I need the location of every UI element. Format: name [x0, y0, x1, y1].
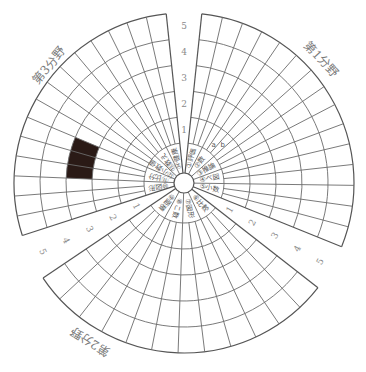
scale-label: 5 [37, 247, 49, 257]
sub-label-b: b [221, 141, 226, 149]
scale-label: 2 [181, 99, 187, 109]
scale-label: 4 [61, 236, 73, 246]
scale-label: 4 [181, 47, 187, 57]
scale-label: 2 [107, 213, 119, 223]
scale-label: 4 [292, 243, 304, 253]
scale-label: 5 [314, 256, 326, 266]
radial-chart: 123451234512345第1分野第3分野第2分野①評価②数③推論④ベ図⑤小… [0, 0, 366, 372]
filled-cell [66, 137, 99, 179]
field-title: 第2分野 [68, 324, 112, 359]
radial-grid: 123451234512345第1分野第3分野第2分野①評価②数③推論④ベ図⑤小… [0, 0, 366, 372]
hub-circle [174, 173, 194, 193]
scale-label: 1 [224, 205, 236, 215]
scale-label: 2 [247, 218, 259, 228]
sub-label-a: a [211, 141, 215, 149]
fan-field1 [185, 14, 354, 247]
scale-label: 1 [181, 125, 187, 135]
fan-field3 [14, 14, 183, 236]
scale-label: 3 [181, 73, 187, 83]
scale-label: 5 [181, 21, 187, 31]
scale-label: 1 [131, 201, 143, 211]
scale-label: 3 [84, 224, 96, 234]
scale-label: 3 [269, 230, 281, 240]
